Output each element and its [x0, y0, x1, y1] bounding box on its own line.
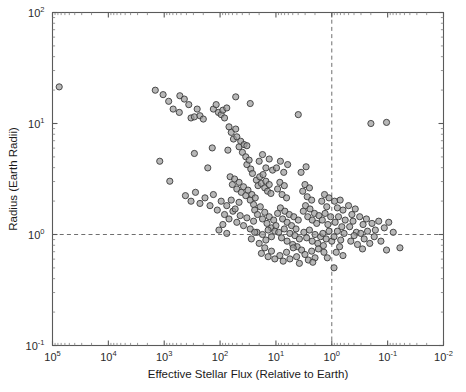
data-point: [224, 105, 230, 111]
data-point: [290, 245, 296, 251]
data-point: [244, 215, 250, 221]
data-point: [209, 145, 215, 151]
data-point: [256, 240, 262, 246]
x-axis-tick-labels: 10510410310210110010-110-2: [44, 349, 453, 363]
x-tick-label-3: 102: [212, 349, 228, 363]
data-point: [334, 228, 340, 234]
data-point: [205, 165, 211, 171]
data-point: [237, 213, 243, 219]
data-point: [345, 203, 351, 209]
data-point: [233, 94, 239, 100]
data-point: [376, 218, 382, 224]
data-point: [360, 221, 366, 227]
data-point: [232, 206, 238, 212]
data-point: [188, 198, 194, 204]
data-point: [284, 238, 290, 244]
data-point: [56, 84, 62, 90]
chart-canvas: 10510410310210110010-110-2 10210110010-1…: [0, 0, 466, 392]
data-point: [248, 236, 254, 242]
data-point: [256, 158, 262, 164]
data-point: [257, 204, 263, 210]
data-point: [191, 114, 197, 120]
data-point: [236, 199, 242, 205]
data-point: [357, 214, 363, 220]
data-point: [296, 236, 302, 242]
data-point: [273, 165, 279, 171]
data-point: [347, 224, 353, 230]
data-point: [304, 235, 310, 241]
data-point: [160, 92, 166, 98]
data-point: [266, 181, 272, 187]
data-point: [218, 198, 224, 204]
data-point: [249, 170, 255, 176]
data-point: [228, 197, 234, 203]
data-point: [386, 219, 392, 225]
y-axis-tick-labels: 10210110010-1: [26, 5, 45, 352]
data-point: [300, 188, 306, 194]
x-tick-label-0: 105: [44, 349, 60, 363]
x-tick-label-1: 104: [100, 349, 116, 363]
data-point: [364, 228, 370, 234]
data-point: [322, 210, 328, 216]
data-point: [157, 158, 163, 164]
data-point: [287, 256, 293, 262]
data-point: [281, 183, 287, 189]
data-point: [244, 143, 250, 149]
data-point: [262, 245, 268, 251]
data-point: [306, 227, 312, 233]
y-axis-title: Radius (Earth Radii): [7, 127, 19, 231]
data-point: [202, 195, 208, 201]
data-point: [226, 216, 232, 222]
data-point: [268, 248, 274, 254]
data-point: [233, 126, 239, 132]
data-point: [340, 207, 346, 213]
x-axis-title: Effective Stellar Flux (Relative to Eart…: [148, 368, 349, 380]
data-point: [224, 203, 230, 209]
data-point: [280, 258, 286, 264]
data-point: [281, 226, 287, 232]
data-point: [225, 147, 231, 153]
data-point: [285, 161, 291, 167]
x-axis-ticks: [53, 13, 444, 346]
data-point: [250, 218, 256, 224]
data-point: [265, 254, 271, 260]
data-point: [283, 195, 289, 201]
data-point: [324, 204, 330, 210]
data-point: [263, 165, 269, 171]
data-point: [390, 229, 396, 235]
data-point: [310, 259, 316, 265]
data-point: [213, 102, 219, 108]
data-point: [332, 219, 338, 225]
y-tick-label-0: 102: [28, 5, 44, 19]
data-point: [303, 164, 309, 170]
data-point: [397, 245, 403, 251]
data-point: [210, 191, 216, 197]
data-point: [348, 238, 354, 244]
data-points: [56, 84, 403, 271]
data-point: [186, 102, 192, 108]
data-point: [328, 214, 334, 220]
data-point: [350, 218, 356, 224]
data-point: [371, 234, 377, 240]
data-point: [265, 227, 271, 233]
data-point: [351, 233, 357, 239]
data-point: [368, 120, 374, 126]
data-point: [363, 216, 369, 222]
data-point: [268, 234, 274, 240]
data-point: [337, 244, 343, 250]
data-point: [361, 236, 367, 242]
data-point: [268, 190, 274, 196]
data-point: [331, 198, 337, 204]
data-point: [367, 240, 373, 246]
data-point: [176, 109, 182, 115]
data-point: [337, 197, 343, 203]
reference-lines: [53, 13, 444, 346]
data-point: [338, 237, 344, 243]
data-point: [383, 247, 389, 253]
x-tick-label-4: 101: [268, 349, 284, 363]
data-point: [309, 248, 315, 254]
data-point: [295, 217, 301, 223]
data-point: [296, 260, 302, 266]
data-point: [381, 225, 387, 231]
data-point: [194, 106, 200, 112]
